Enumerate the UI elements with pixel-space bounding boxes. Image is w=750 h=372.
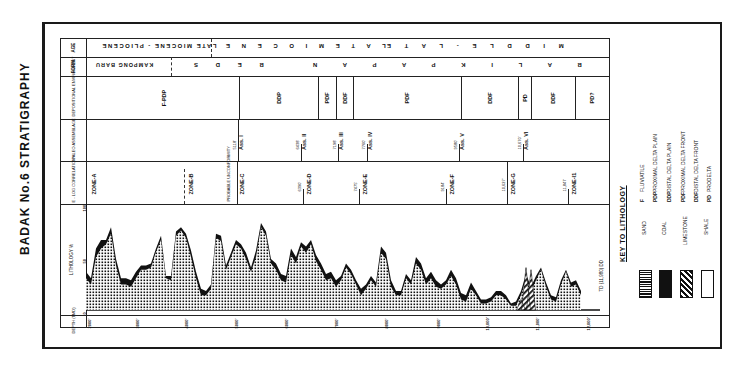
zone-label: ZONE-C [239,170,245,195]
paleo-depth: 5118' [232,130,237,150]
depenv-divider [575,76,576,119]
zone-label: ZONE-G [510,170,516,195]
limestone-swatch [680,270,693,298]
row-divider-depenv [61,119,609,120]
depth-tick-label: 12,000' [586,313,591,331]
depth-tick-label: 11,000' [535,313,540,331]
row-header-paleo: PALEO ASSEMBLAGE [71,120,76,160]
legend-label: COAL [661,221,667,235]
depenv-cell: DDF [550,83,556,113]
depth-tick-label: 9000' [436,315,441,329]
paleo-depth: 7198' [332,130,337,150]
paleo-assemblage: Ass. I [238,130,244,150]
depenv-cell: PDF [404,83,410,113]
abbrev-meaning: DISTAL DELTA FRONT [693,140,699,192]
depenv-divider [318,76,319,119]
td-label: TD (11,980) DD [599,242,604,292]
depth-tick-label: 6000' [284,315,289,329]
lithology-chart [86,204,600,314]
row-divider-age [61,57,609,58]
depth-tick-label: 7000' [334,315,339,329]
legend-label: SAND [641,221,647,235]
paleo-depth: 10,670' [517,130,522,150]
abbrev-meaning: FLUVIATILE [639,164,645,192]
abbrev-code: PDP [652,192,658,202]
paleo-assemblage: Ass. V [459,130,465,150]
figure-title: BADAK No.6 STRATIGRAPHY [18,62,32,255]
abbrev-code: DDF [693,192,699,202]
age-pliocene: LATE MIOCENE - PLIOCENE [101,43,216,49]
depenv-divider [336,76,337,119]
zone-label: ZONE-I1 [571,170,577,195]
depenv-cell: DDF [342,83,348,113]
abbrev-code: F [639,199,645,202]
legend-title: KEY TO LITHOLOGY [619,185,626,262]
depth-tick-label: 2000' [87,315,92,329]
depenv-divider [518,76,519,119]
zone-depth: 11,847' [562,172,567,192]
form-divider [171,57,172,76]
legend-label: SHALE [703,219,709,235]
row-header-depth: DEPTH (TMD) [71,310,76,334]
depenv-cell: PD [522,83,528,113]
paleo-depth: 6438' [295,130,300,150]
zone-depth: 7475' [353,172,358,192]
form-balikpapan: B A L I K P A P A N [301,62,582,68]
zone-tick [507,161,508,204]
legend-label: LIMESTONE [682,216,688,245]
row-divider-paleo [61,161,609,162]
depenv-cell: DDP [276,83,282,113]
depenv-cell: DDF [487,83,493,113]
paleo-assemblage: Ass. II [301,130,307,150]
depenv-cell: PDF [324,83,330,113]
zone-tick [568,189,569,204]
depenv-divider [531,76,532,119]
depenv-cell: F-PDP [161,83,167,113]
abbrev-meaning: PROXIMAL DELTA PLAIN [652,134,658,192]
row-header-elog: E - LOG CORRELATION [71,163,76,203]
zone-label: ZONE-B [188,170,194,195]
paleo-assemblage: Ass. III [338,130,344,150]
zone-depth: 9184' [440,172,445,192]
abbrev-meaning: DISTAL DELTA PLAIN [666,143,672,192]
coal-swatch [659,270,672,298]
depenv-cell: PD? [589,83,595,113]
zone-depth: PROBABLE UNCONFORMITY [226,162,231,202]
zone-tick [184,169,185,204]
depth-tick-label: 4000' [184,315,189,329]
row-header-dep-env: DEPOSITIONAL ENVIRONMENT [71,77,76,117]
abbrev-code: DDP [666,191,672,202]
paleo-assemblage: Ass. IV [367,130,373,150]
depenv-divider [461,76,462,119]
age-late-miocene: L A T E M I O C E N E [221,43,386,49]
age-middle-late: M I D D L E - L A T E [381,43,564,49]
depth-tick-label: 3000' [135,315,140,329]
paleo-depth: 9580' [453,130,458,150]
zone-tick [359,189,360,204]
zone-tick [446,189,447,204]
form-beds: B E D S [186,62,264,68]
depth-tick-label: 5000' [234,315,239,329]
depth-tick-label: 10,000' [485,313,490,331]
limestone-area [517,268,536,310]
abbrev-code: PD [706,195,712,202]
form-kampong-baru: KAMPONG BARU [95,62,153,68]
zone-label: ZONE-F [449,170,455,195]
abbrev-code: PDF [680,192,686,202]
zone-label: ZONE-E [362,170,368,195]
depenv-divider [353,76,354,119]
zone-depth: 6390' [297,172,302,192]
zone-label: ZONE-A [91,170,97,195]
row-header-age: AGE [71,38,76,58]
zone-depth: 10,627' [501,172,506,192]
shale-swatch [701,270,714,298]
row-divider-form [61,76,609,77]
depenv-divider [239,76,240,119]
paleo-depth: 7760' [361,130,366,150]
sand-swatch [639,270,652,298]
abbrev-meaning: PROXIMAL DELTA FRONT [680,131,686,192]
paleo-assemblage: Ass. VI [523,130,529,150]
zone-label: ZONE-D [306,170,312,195]
zone-tick [303,189,304,204]
abbrev-meaning: PRODELTA [706,166,712,192]
